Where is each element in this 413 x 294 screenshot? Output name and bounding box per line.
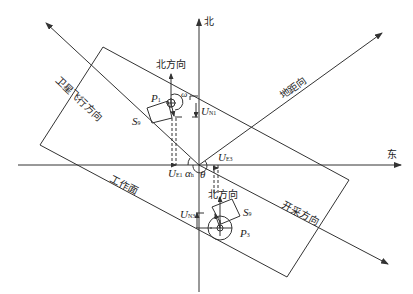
p1-north-label: 北方向 xyxy=(156,60,186,70)
ue3-label: UE3 xyxy=(218,152,233,163)
omega-label: ω xyxy=(181,90,187,99)
un1-label: UN1 xyxy=(201,106,216,117)
alpha-label: αh xyxy=(185,168,194,179)
p3-label: P3 xyxy=(240,228,250,239)
s9-label-3: S9 xyxy=(243,207,252,218)
s9-block-1 xyxy=(147,101,172,123)
p3-north-label: 北方向 xyxy=(208,190,238,200)
s9-label-1: S9 xyxy=(132,116,141,127)
s9-block-3 xyxy=(212,199,240,224)
ue1-label: UE1 xyxy=(168,168,183,179)
diagram-lines xyxy=(0,0,413,294)
diagram-canvas: 北 东 卫星飞行方向 地距向 开采方向 工作面 北方向 P1 ω S9 UN1 … xyxy=(0,0,413,294)
p1-label: P1 xyxy=(151,93,161,104)
un3-label: UN3 xyxy=(180,209,195,220)
north-label: 北 xyxy=(204,17,214,27)
east-label: 东 xyxy=(387,150,397,160)
ground-range-line xyxy=(199,33,382,165)
theta-label: θ xyxy=(200,169,205,180)
